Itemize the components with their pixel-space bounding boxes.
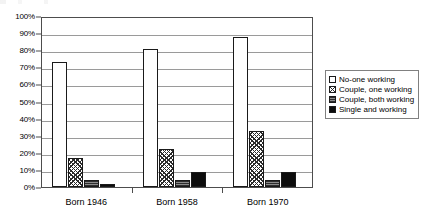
legend-swatch-couple-both-working-icon [329, 96, 336, 103]
y-tick-label-70: 70% [20, 64, 35, 72]
y-tick-label-20: 20% [20, 150, 35, 158]
legend-item-couple-one-working[interactable]: Couple, one working [329, 85, 414, 94]
y-tick-mark-70 [36, 68, 41, 69]
legend-item-single-and-working[interactable]: Single and working [329, 105, 414, 114]
y-tick-mark-100 [36, 17, 41, 18]
y-tick-mark-10 [36, 170, 41, 171]
legend-item-no-one-working[interactable]: No-one working [329, 75, 414, 84]
bar-chart: 0%10%20%30%40%50%60%70%80%90%100% Born 1… [0, 0, 422, 218]
bar-couple-one-working-born-1946 [68, 158, 83, 187]
gridline-30 [42, 138, 312, 139]
bar-couple-both-working-born-1958 [175, 180, 190, 187]
y-tick-label-10: 10% [20, 167, 35, 175]
bar-no-one-working-born-1958 [143, 49, 158, 188]
gridline-80 [42, 52, 312, 53]
x-tick-label-born-1946: Born 1946 [66, 197, 108, 207]
y-tick-mark-90 [36, 34, 41, 35]
plot-area [41, 17, 313, 188]
legend-swatch-no-one-working-icon [329, 76, 336, 83]
legend-swatch-couple-one-working-icon [329, 86, 336, 93]
gridline-20 [42, 155, 312, 156]
y-tick-label-80: 80% [20, 47, 35, 55]
legend-label-single-and-working: Single and working [339, 105, 407, 114]
gridline-60 [42, 86, 312, 87]
y-tick-label-90: 90% [20, 30, 35, 38]
bar-couple-both-working-born-1970 [265, 180, 280, 187]
legend-label-couple-both-working: Couple, both working [339, 95, 414, 104]
y-tick-mark-60 [36, 85, 41, 86]
y-tick-label-100: 100% [15, 13, 35, 21]
x-tick-label-born-1958: Born 1958 [156, 197, 198, 207]
bar-single-and-working-born-1946 [100, 184, 115, 187]
gridline-40 [42, 121, 312, 122]
gridline-50 [42, 104, 312, 105]
y-tick-label-50: 50% [20, 99, 35, 107]
gridline-70 [42, 69, 312, 70]
y-tick-mark-30 [36, 136, 41, 137]
y-tick-label-0: 0% [24, 184, 35, 192]
y-tick-mark-20 [36, 153, 41, 154]
y-tick-mark-0 [36, 188, 41, 189]
y-axis: 0%10%20%30%40%50%60%70%80%90%100% [0, 0, 38, 218]
bar-no-one-working-born-1970 [233, 37, 248, 187]
y-tick-mark-80 [36, 51, 41, 52]
legend-swatch-single-and-working-icon [329, 106, 336, 113]
bar-couple-one-working-born-1958 [159, 149, 174, 187]
y-tick-label-40: 40% [20, 116, 35, 124]
y-tick-label-60: 60% [20, 81, 35, 89]
bar-single-and-working-born-1958 [191, 172, 206, 187]
gridline-90 [42, 35, 312, 36]
bar-no-one-working-born-1946 [52, 62, 67, 187]
y-tick-mark-40 [36, 119, 41, 120]
legend-label-no-one-working: No-one working [339, 75, 395, 84]
bar-couple-both-working-born-1946 [84, 180, 99, 187]
x-tick-mark-1 [132, 188, 133, 193]
y-tick-label-30: 30% [20, 133, 35, 141]
legend-item-couple-both-working[interactable]: Couple, both working [329, 95, 414, 104]
bar-couple-one-working-born-1970 [249, 131, 264, 187]
bar-single-and-working-born-1970 [281, 172, 296, 187]
y-tick-mark-50 [36, 102, 41, 103]
x-tick-label-born-1970: Born 1970 [247, 197, 289, 207]
legend-label-couple-one-working: Couple, one working [339, 85, 412, 94]
x-tick-mark-2 [222, 188, 223, 193]
chart-legend: No-one workingCouple, one workingCouple,… [325, 70, 419, 119]
